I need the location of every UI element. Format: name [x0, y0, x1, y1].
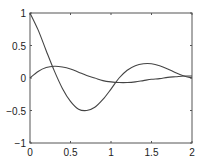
- x-tick-label: 2: [189, 147, 195, 158]
- plot-area: [30, 13, 192, 143]
- y-tick-label: 1: [20, 8, 26, 19]
- y-tick-label: 0: [20, 73, 26, 84]
- x-tick-label: 0: [27, 147, 33, 158]
- y-tick-label: −0.5: [6, 106, 26, 117]
- x-tick-label: 1: [108, 147, 114, 158]
- x-tick-label: 0.5: [64, 147, 78, 158]
- chart-svg: 00.511.5210.50−0.5−1: [0, 0, 201, 162]
- y-tick-label: 0.5: [12, 41, 26, 52]
- x-tick-label: 1.5: [145, 147, 159, 158]
- y-tick-label: −1: [15, 138, 27, 149]
